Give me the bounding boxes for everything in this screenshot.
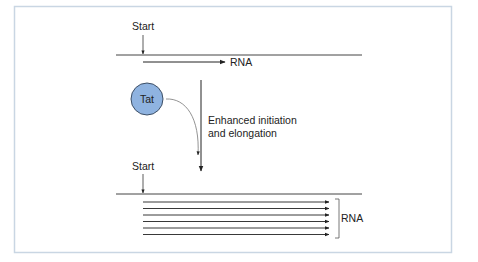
start-label-top: Start: [132, 20, 154, 32]
effect-label-line1: Enhanced initiation: [208, 114, 297, 126]
tat-label: Tat: [140, 93, 154, 105]
tat-transcription-diagram: Start RNA Tat Enhanced initiation and el…: [0, 0, 478, 262]
rna-label-bottom: RNA: [341, 212, 363, 224]
rna-bracket: [335, 199, 339, 238]
tat-curved-arrow: [166, 99, 198, 155]
effect-label-line2: and elongation: [208, 127, 277, 139]
rna-label-top: RNA: [230, 56, 252, 68]
start-label-bottom: Start: [132, 160, 154, 172]
rna-transcripts: [143, 202, 329, 235]
